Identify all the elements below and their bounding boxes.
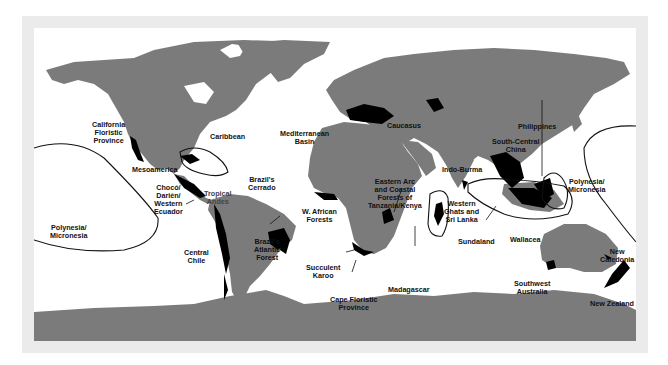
- label-choco-darien-western-ecuador: Chocó/ Darién/ Western Ecuador: [154, 184, 183, 216]
- world-map: California Floristic Province Caribbean …: [34, 28, 636, 341]
- label-new-caledonia: New Caledonia: [600, 248, 634, 264]
- label-indo-burma: Indo-Burma: [442, 166, 482, 174]
- label-eastern-arc: Eastern Arc and Coastal Forests of Tanza…: [368, 178, 422, 210]
- label-philippines: Philippines: [518, 123, 556, 131]
- label-western-ghats-sri-lanka: Western Ghats and Sri Lanka: [444, 200, 479, 224]
- label-west-african-forests: W. African Forests: [302, 208, 337, 224]
- label-brazils-atlantic-forest: Brazil's Atlantic Forest: [254, 238, 280, 262]
- label-south-central-china: South-Central China: [492, 138, 540, 154]
- label-central-chile: Central Chile: [184, 249, 209, 265]
- label-southwest-australia: Southwest Australia: [514, 280, 550, 296]
- label-mediterranean-basin: Mediterranean Basin: [280, 130, 329, 146]
- label-mesoamerica: Mesoamerica: [132, 166, 178, 174]
- label-sundaland: Sundaland: [458, 238, 495, 246]
- label-tropical-andes: Tropical Andes: [204, 190, 232, 206]
- label-polynesia-micronesia-west: Polynesia/ Micronesia: [50, 224, 88, 240]
- label-california-floristic-province: California Floristic Province: [92, 121, 125, 145]
- label-wallacea: Wallacea: [510, 236, 541, 244]
- label-polynesia-micronesia-east: Polynesia/ Micronesia: [568, 178, 606, 194]
- label-new-zealand: New Zealand: [590, 300, 634, 308]
- label-madagascar: Madagascar: [388, 286, 430, 294]
- label-caribbean: Caribbean: [210, 133, 245, 141]
- label-brazils-cerrado: Brazil's Cerrado: [248, 176, 276, 192]
- label-succulent-karoo: Succulent Karoo: [306, 264, 340, 280]
- label-cape-floristic-province: Cape Floristic Province: [330, 296, 378, 312]
- label-caucasus: Caucasus: [387, 122, 421, 130]
